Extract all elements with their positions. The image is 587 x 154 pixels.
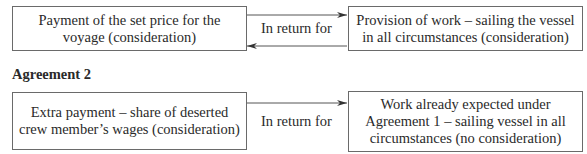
existing-work-box: Work already expected under Agreement 1 …	[348, 91, 583, 152]
existing-work-text: Work already expected under Agreement 1 …	[355, 96, 576, 147]
extra-payment-box: Extra payment – share of deserted crew m…	[12, 92, 247, 150]
in-return-for-label-1: In return for	[261, 20, 332, 37]
agreement-2-heading: Agreement 2	[12, 66, 91, 83]
in-return-for-label-2: In return for	[261, 113, 332, 130]
work-provision-text: Provision of work – sailing the vessel i…	[355, 12, 576, 46]
payment-text: Payment of the set price for the voyage …	[19, 12, 240, 46]
work-provision-box: Provision of work – sailing the vessel i…	[348, 6, 583, 51]
extra-payment-text: Extra payment – share of deserted crew m…	[19, 104, 240, 138]
payment-box: Payment of the set price for the voyage …	[12, 6, 247, 51]
